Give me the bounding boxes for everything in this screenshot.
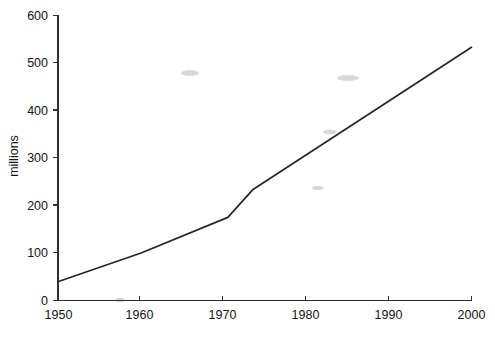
x-tick-label-2000: 2000 [458,308,486,322]
y-axis-ticks [53,16,58,301]
y-axis-title: millions [7,135,21,177]
y-tick-label-100: 100 [27,246,48,260]
scan-artifacts [115,70,359,302]
y-tick-label-600: 600 [27,9,48,23]
y-axis-tick-labels: 0 100 200 300 400 500 600 [27,9,48,308]
data-series-millions [59,47,472,281]
x-tick-label-1970: 1970 [209,308,237,322]
x-axis-tick-labels: 1950 1960 1970 1980 1990 2000 [45,308,486,322]
y-tick-label-0: 0 [41,294,48,308]
x-tick-label-1960: 1960 [126,308,154,322]
line-chart: 0 100 200 300 400 500 600 1950 1960 1970… [0,0,495,340]
y-tick-label-200: 200 [27,199,48,213]
y-tick-label-300: 300 [27,151,48,165]
y-tick-label-500: 500 [27,56,48,70]
chart-canvas: 0 100 200 300 400 500 600 1950 1960 1970… [0,0,495,340]
y-tick-label-400: 400 [27,104,48,118]
x-tick-label-1990: 1990 [375,308,403,322]
x-tick-label-1950: 1950 [45,308,73,322]
x-tick-label-1980: 1980 [292,308,320,322]
